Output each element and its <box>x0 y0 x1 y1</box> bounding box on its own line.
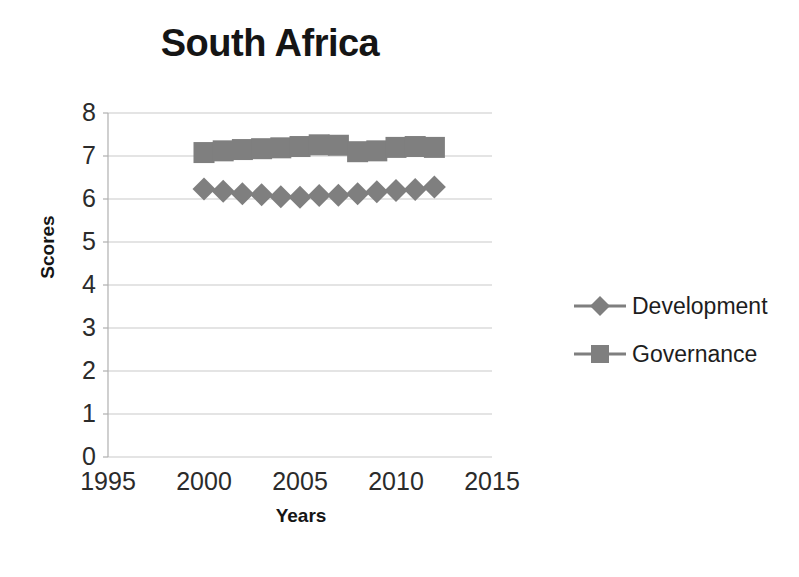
y-tick-label: 4 <box>50 272 96 297</box>
x-tick-label: 2010 <box>351 469 441 494</box>
data-point-diamond <box>404 178 427 201</box>
series-layer <box>193 134 446 208</box>
y-tick-label: 8 <box>50 100 96 125</box>
data-point-square <box>328 135 349 156</box>
data-point-diamond <box>269 185 292 208</box>
data-point-diamond <box>423 175 446 198</box>
axis-lines <box>103 113 108 457</box>
data-point-diamond <box>250 183 273 206</box>
data-point-square <box>290 136 311 157</box>
data-point-diamond <box>231 182 254 205</box>
y-tick-label: 7 <box>50 143 96 168</box>
diamond-marker-icon <box>572 292 628 320</box>
gridlines <box>108 113 492 457</box>
data-point-square <box>405 136 426 157</box>
x-tick-label: 2000 <box>159 469 249 494</box>
plot-area <box>108 113 492 457</box>
data-point-square <box>424 137 445 158</box>
series-development <box>193 175 446 208</box>
chart-container: South Africa Scores Years 012345678 1995… <box>0 0 799 577</box>
x-tick-label: 2015 <box>447 469 537 494</box>
data-point-diamond <box>327 184 350 207</box>
data-point-square <box>270 137 291 158</box>
y-tick-label: 1 <box>50 401 96 426</box>
legend-label: Development <box>628 295 768 318</box>
data-point-square <box>213 140 234 161</box>
y-tick-label: 5 <box>50 229 96 254</box>
legend-label: Governance <box>628 343 757 366</box>
y-tick-label: 6 <box>50 186 96 211</box>
data-point-square <box>386 137 407 158</box>
x-tick-label: 1995 <box>63 469 153 494</box>
y-tick-label: 3 <box>50 315 96 340</box>
data-point-square <box>366 140 387 161</box>
data-point-diamond <box>193 178 216 201</box>
data-point-diamond <box>346 182 369 205</box>
square-marker-icon <box>572 340 628 368</box>
data-point-square <box>347 141 368 162</box>
data-point-diamond <box>289 186 312 209</box>
data-point-square <box>232 139 253 160</box>
y-tick-label: 2 <box>50 358 96 383</box>
data-point-square <box>194 142 215 163</box>
data-point-square <box>309 134 330 155</box>
legend-item-development[interactable]: Development <box>572 282 792 330</box>
legend-item-governance[interactable]: Governance <box>572 330 792 378</box>
chart-title: South Africa <box>0 22 540 65</box>
data-point-diamond <box>308 184 331 207</box>
x-tick-label: 2005 <box>255 469 345 494</box>
series-governance <box>194 134 445 163</box>
chart-legend: DevelopmentGovernance <box>572 282 792 378</box>
y-tick-label: 0 <box>50 444 96 469</box>
data-point-diamond <box>365 180 388 203</box>
data-point-square <box>251 138 272 159</box>
data-point-diamond <box>385 179 408 202</box>
plot-svg <box>108 113 492 457</box>
x-axis-title: Years <box>108 505 494 527</box>
